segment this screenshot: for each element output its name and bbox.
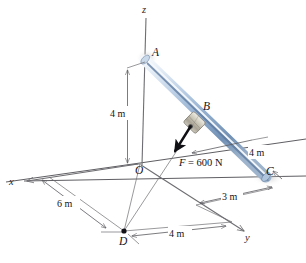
point-label-O: O bbox=[135, 164, 144, 176]
x-axis bbox=[27, 164, 138, 181]
dim-label-6m: 6 m bbox=[57, 198, 73, 209]
axis-label-x: x bbox=[8, 176, 14, 187]
dimension-offset-3m: 3 m bbox=[200, 187, 272, 203]
point-markers bbox=[121, 228, 126, 233]
point-label-B: B bbox=[203, 100, 210, 112]
dimension-offset-6m: 6 m bbox=[42, 180, 124, 232]
dimension-height-4m: 4 m bbox=[108, 62, 145, 165]
ext-line-4m-right-top bbox=[252, 137, 268, 140]
dim-label-4m-base: 4 m bbox=[169, 228, 185, 239]
dimension-offset-4m-base: 4 m bbox=[128, 226, 226, 244]
force-unit: N bbox=[215, 157, 223, 168]
line-y-to-base bbox=[196, 205, 232, 222]
point-marker-D bbox=[121, 228, 126, 233]
point-label-C: C bbox=[266, 165, 274, 177]
axis-label-y: y bbox=[244, 232, 250, 243]
labels: z x y A B C O D bbox=[8, 4, 274, 247]
point-label-D: D bbox=[118, 235, 128, 247]
force-label-group: F = 600 N bbox=[178, 157, 223, 168]
axis-label-z: z bbox=[141, 4, 146, 15]
z-axis bbox=[142, 18, 146, 165]
force-label: F = 600 N bbox=[178, 157, 223, 168]
force-equals: = bbox=[185, 157, 196, 168]
dim-label-4m-right: 4 m bbox=[249, 147, 265, 158]
statics-diagram: 4 m 4 m 3 m 6 m 4 m z x y A B C bbox=[0, 0, 306, 263]
force-magnitude: 600 bbox=[197, 157, 213, 168]
dim-label-3m: 3 m bbox=[222, 191, 238, 202]
force-arrow bbox=[175, 127, 190, 152]
point-label-A: A bbox=[151, 46, 160, 58]
dim-label-height: 4 m bbox=[110, 108, 126, 119]
